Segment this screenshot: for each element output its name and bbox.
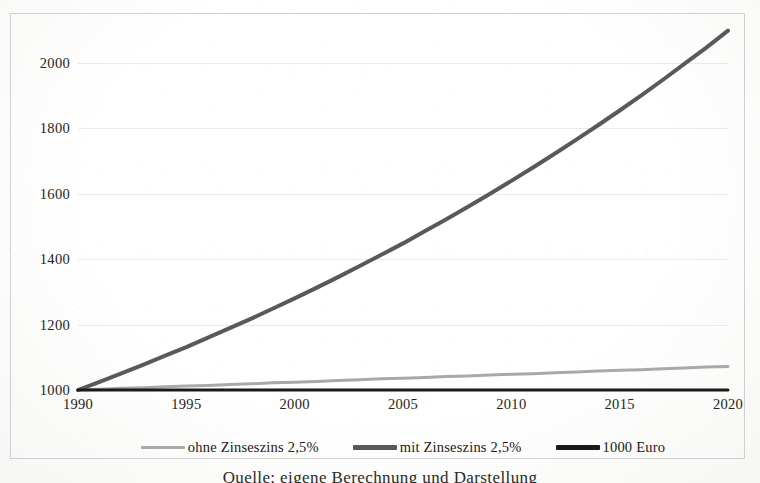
series-line (78, 31, 728, 390)
chart-legend: ohne Zinseszins 2,5%mit Zinseszins 2,5%1… (78, 436, 728, 458)
legend-swatch-ohne-zinseszins (141, 446, 185, 449)
legend-label: mit Zinseszins 2,5% (400, 439, 522, 456)
legend-swatch-mit-zinseszins (353, 445, 397, 450)
chart-series-layer (0, 0, 760, 483)
legend-item: 1000 Euro (556, 439, 666, 456)
series-line (78, 366, 728, 390)
legend-label: ohne Zinseszins 2,5% (188, 439, 319, 456)
legend-item: mit Zinseszins 2,5% (353, 439, 522, 456)
legend-label: 1000 Euro (603, 439, 666, 456)
legend-swatch-1000-euro (556, 445, 600, 450)
figure-caption: Quelle: eigene Berechnung und Darstellun… (0, 468, 760, 483)
legend-item: ohne Zinseszins 2,5% (141, 439, 319, 456)
